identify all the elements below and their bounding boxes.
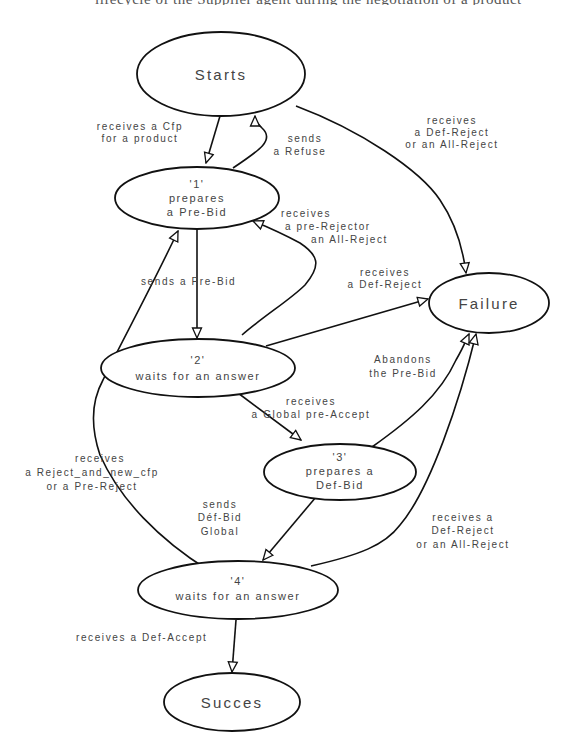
label-defbid-2: Déf-Bid: [198, 512, 243, 523]
node-3-line2: prepares a: [306, 465, 375, 477]
state-diagram: Starts '1' prepares a Pre-Bid '2' waits …: [0, 0, 574, 755]
edge-n4-to-succes: [232, 620, 236, 672]
label-reject-newcfp-2: a Reject_and_new_cfp: [25, 467, 159, 478]
edge-n2-to-failure: [266, 299, 428, 346]
label-n4-failure-2: Def-Reject: [431, 525, 494, 536]
label-cfp-1: receives a Cfp: [97, 121, 183, 132]
label-prereject-1: receives: [281, 208, 331, 219]
node-3-line3: Def-Bid: [316, 479, 364, 491]
node-starts-label: Starts: [195, 66, 247, 83]
edge-n1-to-starts: [233, 116, 267, 168]
node-1-id: '1': [189, 178, 204, 190]
node-3-id: '3': [332, 451, 347, 463]
node-failure: Failure: [429, 273, 549, 333]
label-defbid-1: sends: [203, 499, 238, 510]
label-def-accept: receives a Def-Accept: [76, 632, 207, 643]
label-starts-failure-1: receives: [427, 115, 477, 126]
label-n4-failure-3: or an All-Reject: [416, 539, 509, 550]
node-4-id: '4': [230, 575, 245, 587]
node-failure-label: Failure: [458, 295, 519, 312]
label-reject-newcfp-3: or a Pre-Reject: [46, 481, 137, 492]
node-3: '3' prepares a Def-Bid: [264, 444, 416, 500]
label-cfp-2: for a product: [102, 133, 179, 144]
node-2: '2' waits for an answer: [101, 339, 295, 397]
label-starts-failure-2: a Def-Reject: [415, 127, 490, 138]
edge-starts-to-n1: [206, 116, 220, 163]
label-abandons-1: Abandons: [374, 354, 432, 365]
label-n2-failure-2: a Def-Reject: [348, 279, 423, 290]
label-n2-failure-1: receives: [360, 267, 410, 278]
node-2-line2: waits for an answer: [134, 370, 260, 382]
label-sends-prebid: sends a Pre-Bid: [141, 276, 236, 287]
edge-n3-to-n4: [263, 497, 316, 560]
node-4: '4' waits for an answer: [138, 561, 338, 619]
label-abandons-2: the Pre-Bid: [369, 368, 437, 379]
node-succes-label: Succes: [201, 694, 263, 711]
node-1-line2: prepares: [169, 192, 225, 204]
edge-n3-to-failure: [372, 334, 469, 447]
label-starts-failure-3: or an All-Reject: [405, 139, 498, 150]
label-prereject-3: an All-Reject: [311, 234, 388, 245]
node-1: '1' prepares a Pre-Bid: [115, 167, 279, 229]
node-starts: Starts: [137, 32, 305, 116]
node-1-line3: a Pre-Bid: [167, 206, 227, 218]
node-4-line2: waits for an answer: [174, 590, 300, 602]
label-refuse-1: sends: [288, 133, 323, 144]
label-n4-failure-1: receives a: [432, 512, 494, 523]
node-succes: Succes: [164, 673, 300, 731]
label-reject-newcfp-1: receives: [75, 453, 125, 464]
label-refuse-2: a Refuse: [274, 146, 327, 157]
label-prereject-2: a pre-Rejector: [285, 221, 371, 232]
edge-n2-to-n1: [242, 221, 316, 335]
label-global-preaccept-1: receives: [286, 396, 336, 407]
label-defbid-3: Global: [201, 526, 240, 537]
label-global-preaccept-2: a Global pre-Accept: [252, 409, 371, 420]
node-2-id: '2': [190, 354, 205, 366]
